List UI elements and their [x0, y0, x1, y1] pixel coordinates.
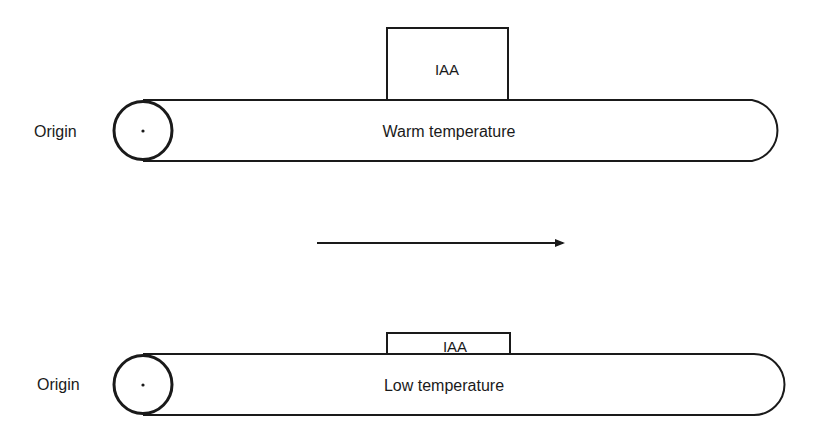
- bottom-origin-dot: [141, 383, 144, 386]
- bottom-tube-label: Low temperature: [384, 377, 504, 394]
- top-origin-label: Origin: [34, 123, 77, 140]
- top-iaa-label: IAA: [435, 61, 459, 78]
- top-tube-label: Warm temperature: [383, 123, 516, 140]
- diagram-canvas: Origin IAA Warm temperature Origin IAA L…: [0, 0, 817, 441]
- bottom-panel: Origin IAA Low temperature: [37, 333, 784, 415]
- top-panel: Origin IAA Warm temperature: [34, 28, 777, 161]
- bottom-origin-label: Origin: [37, 376, 80, 393]
- bottom-iaa-label: IAA: [443, 338, 467, 355]
- top-origin-dot: [141, 129, 144, 132]
